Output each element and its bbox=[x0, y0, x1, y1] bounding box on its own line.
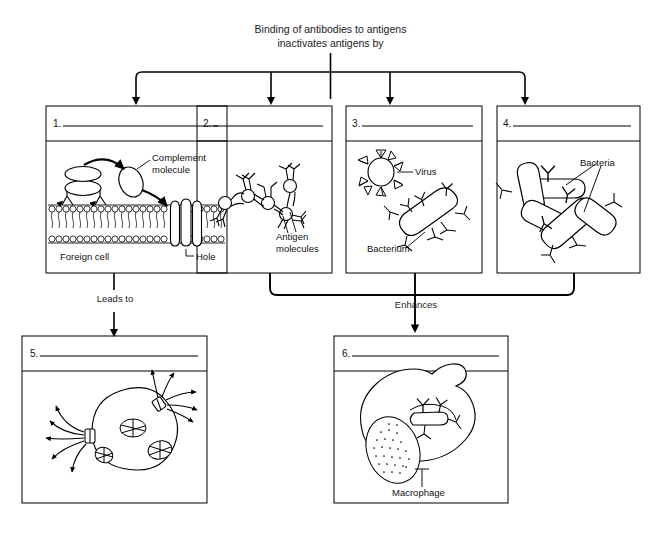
panel-2-number: 2. bbox=[203, 118, 211, 129]
figure-macrophage-phagocytosis bbox=[357, 364, 475, 491]
panel-5-number: 5. bbox=[30, 348, 38, 359]
panel-1-number: 1. bbox=[53, 118, 61, 129]
antigen-molecules-label: Antigen molecules bbox=[276, 231, 319, 254]
virus-label: Virus bbox=[415, 166, 436, 178]
bacteria-label: Bacteria bbox=[580, 157, 615, 169]
panel-3-number: 3. bbox=[352, 118, 360, 129]
connector-enhances-label: Enhances bbox=[385, 299, 447, 310]
diagram-canvas: Binding of antibodies to antigens inacti… bbox=[0, 0, 661, 543]
figure-lysing-cell-contents-escaping bbox=[46, 370, 197, 472]
foreign-cell-label: Foreign cell bbox=[60, 251, 109, 263]
panel-4-number: 4. bbox=[503, 118, 511, 129]
figure-agglutinated-bacteria bbox=[496, 163, 622, 263]
connector-trunk-to-four bbox=[136, 53, 525, 99]
complement-molecule-label: Complement molecule bbox=[152, 152, 206, 175]
panel-6-number: 6. bbox=[342, 348, 350, 359]
hole-label: Hole bbox=[196, 251, 216, 263]
bacterium-label: Bacterium bbox=[367, 243, 410, 255]
figure-antibody-coated-virus-and-bacterium bbox=[358, 150, 470, 251]
connector-leads-to-label: Leads to bbox=[84, 293, 146, 304]
macrophage-label: Macrophage bbox=[392, 487, 445, 499]
diagram-artwork bbox=[0, 0, 661, 543]
